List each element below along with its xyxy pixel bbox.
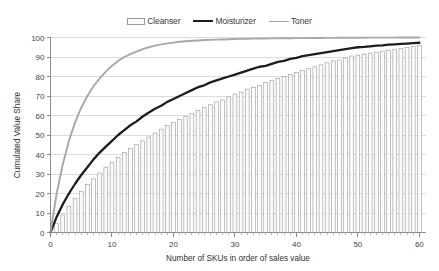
bar [251,87,255,232]
y-axis-ticks: 0102030405060708090100 [31,34,50,238]
bar [399,48,403,232]
x-tick-label: 30 [230,240,239,249]
bar [350,56,354,232]
bar [374,52,378,232]
bar [264,82,268,232]
bar [202,108,206,233]
y-tick-label: 60 [36,112,45,121]
x-tick-label: 20 [169,240,178,249]
bar [85,185,89,233]
bar [208,105,212,233]
bar [362,54,366,232]
bar [147,137,151,233]
bar [153,133,157,232]
x-axis-ticks: 0102030405060 [48,233,424,249]
y-tick-label: 50 [36,131,45,140]
y-tick-label: 0 [40,229,45,238]
y-tick-label: 90 [36,53,45,62]
bar [411,46,415,232]
bar [338,60,342,233]
bar [405,47,409,232]
bar [295,73,299,233]
y-tick-label: 40 [36,151,45,160]
bar [344,58,348,233]
bar [129,149,133,233]
bar [319,65,323,233]
bar [184,116,188,232]
bar [258,85,262,232]
chart-canvas: 0102030405060 0102030405060708090100 Num… [0,0,439,271]
bar [368,53,372,232]
bar [325,63,329,233]
bar [270,80,274,232]
bar [313,67,317,233]
bar [282,77,286,233]
y-tick-label: 80 [36,73,45,82]
bar [110,162,114,232]
bar [116,157,120,232]
bar [61,215,65,233]
bar [92,179,96,233]
bar [67,206,71,232]
bar [387,50,391,232]
bar [288,75,292,233]
y-axis-title: Cumulated Value Share [13,91,22,178]
bar [331,61,335,233]
bar [141,141,145,233]
bar [276,78,280,232]
bar [221,100,225,233]
bar [307,69,311,233]
bar [417,45,421,232]
bar [393,49,397,232]
bar [98,173,102,232]
bar [190,114,194,233]
bar [73,198,77,232]
bar [104,167,108,232]
y-tick-label: 70 [36,92,45,101]
bar [301,71,305,233]
bar [381,51,385,232]
x-tick-label: 10 [108,240,117,249]
x-tick-label: 40 [292,240,301,249]
y-tick-label: 10 [36,209,45,218]
bar [79,192,83,233]
bar [178,119,182,232]
bar [172,122,176,232]
bar [55,224,59,233]
y-tick-label: 20 [36,190,45,199]
bar [356,55,360,232]
bar [239,92,243,232]
bar [159,129,163,232]
bar [135,145,139,233]
chart-page: Cleanser Moisturizer Toner 0102030405060… [0,0,439,271]
bar [227,97,231,233]
x-tick-label: 0 [48,240,53,249]
bar [215,102,219,233]
y-tick-label: 30 [36,170,45,179]
x-axis-title: Number of SKUs in order of sales value [166,254,310,263]
bar [233,94,237,232]
bar [122,153,126,233]
bar [165,125,169,232]
bar [245,89,249,232]
x-tick-label: 50 [353,240,362,249]
y-tick-label: 100 [31,34,45,43]
x-tick-label: 60 [415,240,424,249]
bar [196,111,200,233]
